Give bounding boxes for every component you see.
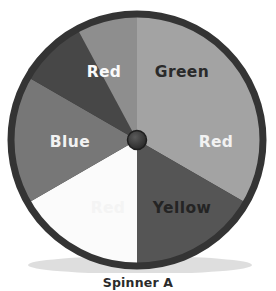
sector-label-red-bottom-left: Red	[91, 199, 126, 217]
spinner-wheel[interactable]: Red Green Red Yellow Red Blue	[4, 7, 270, 273]
sector-label-green: Green	[155, 63, 209, 81]
sector-label-red-top-left: Red	[87, 63, 122, 81]
spinner-figure: Red Green Red Yellow Red Blue Spinner A	[0, 0, 276, 291]
sector-label-blue: Blue	[50, 133, 90, 151]
spinner-hub[interactable]	[128, 131, 147, 150]
spinner-graphic[interactable]: Red Green Red Yellow Red Blue	[4, 7, 270, 273]
figure-caption: Spinner A	[0, 276, 276, 291]
sector-label-yellow: Yellow	[152, 199, 211, 217]
sector-label-red-right: Red	[199, 133, 234, 151]
